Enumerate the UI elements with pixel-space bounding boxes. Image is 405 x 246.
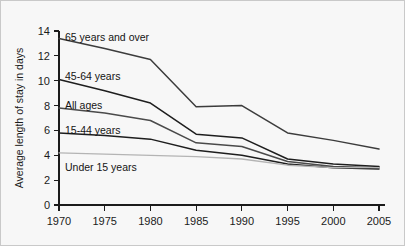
chart-series-lines bbox=[59, 38, 379, 169]
x-axis-ticks bbox=[59, 205, 379, 211]
y-axis-tick-labels: 02468101214 bbox=[38, 25, 50, 211]
y-tick-label: 14 bbox=[38, 25, 50, 37]
y-tick-label: 10 bbox=[38, 75, 50, 87]
y-tick-label: 6 bbox=[44, 124, 50, 136]
x-tick-label: 1985 bbox=[184, 215, 208, 227]
x-tick-label: 1995 bbox=[275, 215, 299, 227]
series-inline-label: 45-64 years bbox=[65, 70, 120, 82]
chart-figure: 02468101214 1970197519801985199019952000… bbox=[0, 0, 405, 246]
y-axis-ticks bbox=[54, 31, 59, 205]
series-inline-label: 65 years and over bbox=[65, 31, 150, 43]
y-tick-label: 12 bbox=[38, 50, 50, 62]
x-axis-tick-labels: 19701975198019851990199520002005 bbox=[47, 215, 391, 227]
series-inline-label: All ages bbox=[65, 99, 102, 111]
series-inline-label: Under 15 years bbox=[65, 161, 137, 173]
chart-axes bbox=[54, 31, 385, 211]
x-tick-label: 1990 bbox=[230, 215, 254, 227]
y-tick-label: 4 bbox=[44, 149, 50, 161]
series-inline-label: 15-44 years bbox=[65, 124, 120, 136]
chart-series-labels: 65 years and over45-64 yearsAll ages15-4… bbox=[65, 31, 150, 174]
line-chart-plot: 02468101214 1970197519801985199019952000… bbox=[1, 1, 405, 246]
x-tick-label: 1970 bbox=[47, 215, 71, 227]
x-tick-label: 2000 bbox=[321, 215, 345, 227]
y-tick-label: 2 bbox=[44, 174, 50, 186]
series-line bbox=[59, 108, 379, 168]
y-tick-label: 0 bbox=[44, 199, 50, 211]
x-tick-label: 1980 bbox=[138, 215, 162, 227]
x-tick-label: 2005 bbox=[367, 215, 391, 227]
y-tick-label: 8 bbox=[44, 100, 50, 112]
x-tick-label: 1975 bbox=[92, 215, 116, 227]
y-axis-title: Average length of stay in days bbox=[13, 48, 25, 188]
